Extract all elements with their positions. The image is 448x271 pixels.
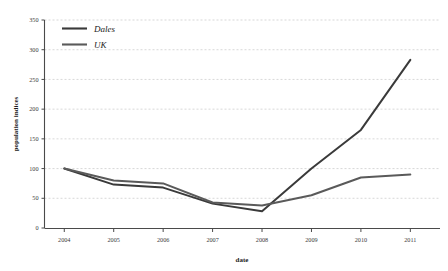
x-axis-title: date — [236, 256, 249, 264]
x-tick-label: 2006 — [157, 236, 169, 243]
legend-label-uk: UK — [94, 40, 107, 50]
x-tick-label: 2008 — [256, 236, 268, 243]
y-tick-label: 100 — [29, 165, 38, 172]
x-tick-label: 2007 — [206, 236, 218, 243]
y-axis-title: population indices — [12, 96, 20, 151]
y-tick-label: 300 — [29, 46, 38, 53]
y-tick-label: 150 — [29, 135, 38, 142]
y-tick-label: 350 — [29, 16, 38, 23]
x-tick-label: 2011 — [404, 236, 416, 243]
y-tick-label: 0 — [35, 224, 38, 231]
x-tick-label: 2010 — [355, 236, 367, 243]
y-tick-label: 200 — [29, 105, 38, 112]
x-tick-label: 2009 — [305, 236, 317, 243]
line-chart: 050100150200250300350 200420052006200720… — [0, 0, 448, 271]
x-tick-label: 2005 — [108, 236, 120, 243]
x-tick-label: 2004 — [58, 236, 70, 243]
chart-canvas: 050100150200250300350 200420052006200720… — [0, 0, 448, 271]
y-tick-label: 250 — [29, 76, 38, 83]
y-tick-label: 50 — [32, 194, 38, 201]
chart-background — [0, 0, 448, 271]
legend-label-dales: Dales — [93, 24, 115, 34]
